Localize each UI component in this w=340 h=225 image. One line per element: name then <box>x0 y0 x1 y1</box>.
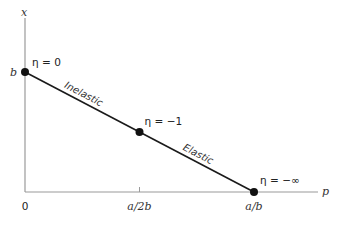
data-point <box>21 68 29 76</box>
elasticity-annotation: η = −∞ <box>260 174 300 186</box>
x-axis-label: p <box>322 185 329 198</box>
region-label: Inelastic <box>63 79 106 108</box>
x-tick-label: 0 <box>22 200 29 212</box>
x-tick-label: a/2b <box>127 200 151 213</box>
y-axis-label: x <box>21 6 28 19</box>
data-point <box>250 188 258 196</box>
data-point <box>136 128 144 136</box>
elasticity-annotation: η = 0 <box>32 56 61 68</box>
elasticity-annotation: η = −1 <box>145 115 183 127</box>
demand-elasticity-chart: x p 0a/2ba/b b InelasticElastic η = 0η =… <box>0 0 340 225</box>
y-tick-label: b <box>10 66 17 79</box>
x-tick-label: a/b <box>245 200 262 213</box>
